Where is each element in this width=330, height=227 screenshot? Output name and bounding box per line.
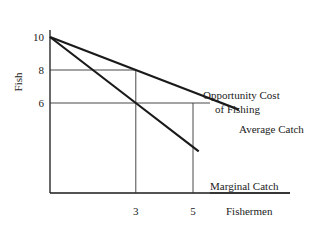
opportunity-cost-label-line1: Opportunity Cost: [203, 89, 280, 101]
average-catch-label: Average Catch: [239, 123, 304, 135]
x-tick-label: 5: [190, 205, 196, 217]
y-tick-label: 10: [33, 31, 45, 43]
y-tick-label: 8: [39, 64, 45, 76]
y-tick-label: 6: [39, 97, 45, 109]
y-axis-label: Fish: [12, 72, 24, 91]
tick-labels: 681035: [33, 31, 196, 217]
annotations: Fish Fishermen Opportunity Cost of Fishi…: [12, 72, 304, 217]
x-axis-label: Fishermen: [226, 205, 273, 217]
marginal-catch-label: Marginal Catch: [210, 180, 279, 192]
marginal-catch-line: [50, 37, 199, 151]
x-tick-label: 3: [133, 205, 139, 217]
opportunity-cost-label-line2: of Fishing: [215, 103, 260, 115]
chart: 681035 Fish Fishermen Opportunity Cost o…: [0, 0, 330, 227]
